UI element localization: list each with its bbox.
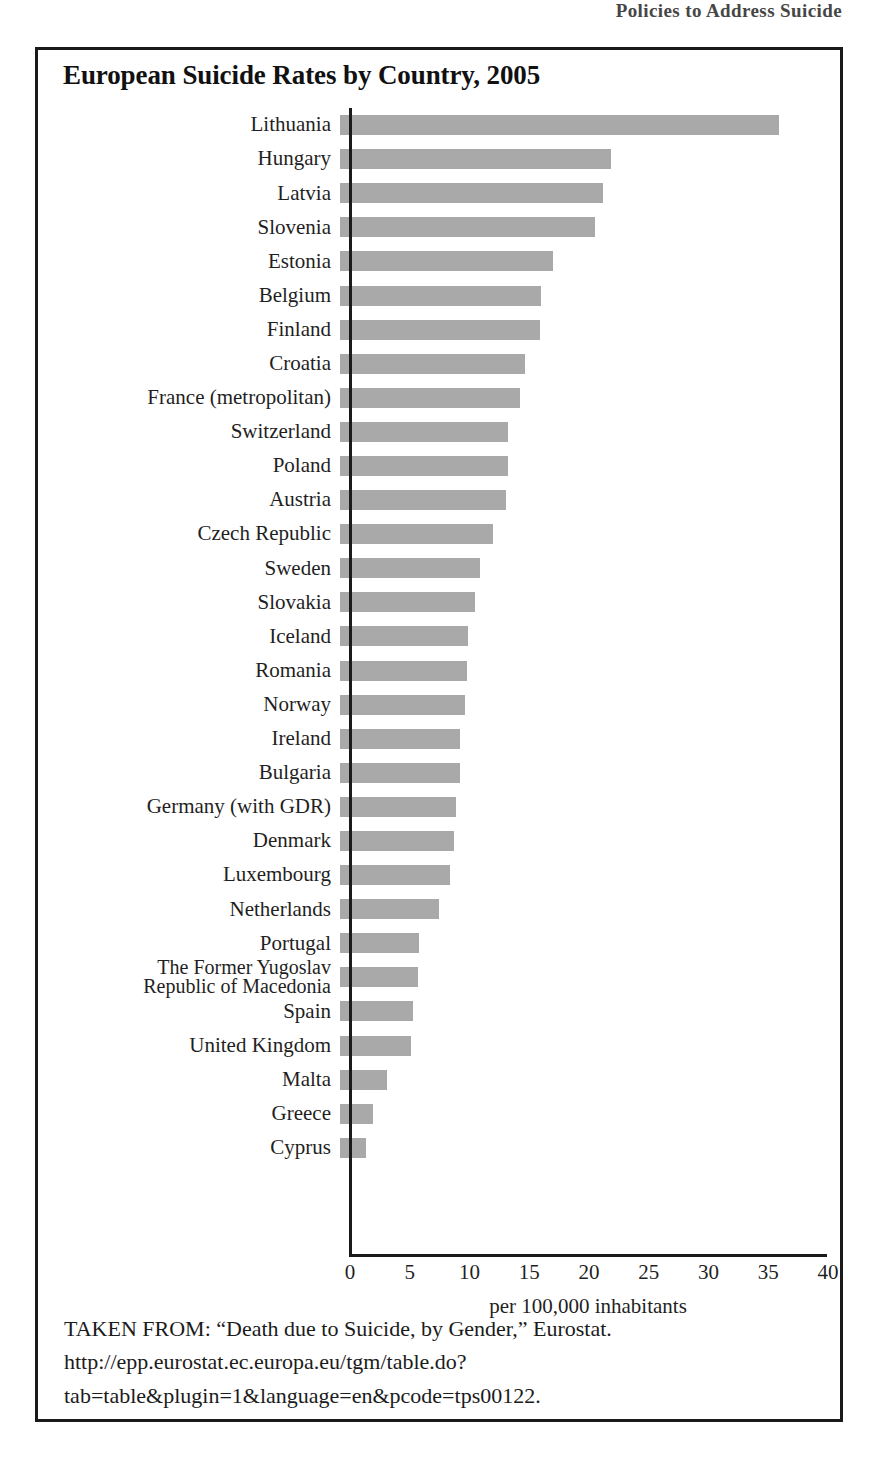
bar-row: Luxembourg [38,858,840,892]
bar-track [340,960,840,994]
bar-category-label: Denmark [38,830,340,851]
bar-track [340,415,840,449]
bar [340,524,493,544]
bar [340,763,460,783]
bar-track [340,824,840,858]
bar-track [340,1131,840,1165]
bar-row: Sweden [38,551,840,585]
bar [340,1104,373,1124]
bar [340,251,553,271]
bar-category-label: United Kingdom [38,1035,340,1056]
bar-track [340,1029,840,1063]
bar-track [340,654,840,688]
x-tick-label: 15 [519,1260,540,1285]
bar-category-label: Slovakia [38,592,340,613]
bar-row: Bulgaria [38,756,840,790]
y-axis-line [349,108,352,1256]
bar-track [340,449,840,483]
x-axis-line [349,1254,827,1257]
bar-category-label: Lithuania [38,114,340,135]
bar-track [340,1063,840,1097]
bar-row: Greece [38,1097,840,1131]
bar-row: Spain [38,994,840,1028]
bar-row: Denmark [38,824,840,858]
bar [340,286,541,306]
bar-track [340,278,840,312]
bar-category-label: Switzerland [38,421,340,442]
x-tick-label: 25 [638,1260,659,1285]
bar-category-label: Czech Republic [38,523,340,544]
x-tick-label: 30 [698,1260,719,1285]
bar-row: United Kingdom [38,1029,840,1063]
bar-track [340,756,840,790]
bar [340,626,468,646]
bar-track [340,892,840,926]
bar-row: Estonia [38,244,840,278]
bar-category-label: Austria [38,489,340,510]
x-axis-ticks: 0510152025303540 [38,1260,840,1294]
bar-row: The Former Yugoslav Republic of Macedoni… [38,960,840,994]
bar-category-label: Netherlands [38,899,340,920]
x-tick-label: 35 [758,1260,779,1285]
bar-row: Norway [38,688,840,722]
bar-category-label: Romania [38,660,340,681]
bar-category-label: Hungary [38,148,340,169]
bar-row: Latvia [38,176,840,210]
bar [340,1070,387,1090]
chart-title: European Suicide Rates by Country, 2005 [63,60,540,91]
bar [340,490,506,510]
bar [340,695,465,715]
bar-category-label: Latvia [38,183,340,204]
bar-category-label: Portugal [38,933,340,954]
bar [340,388,520,408]
bar-track [340,517,840,551]
bar [340,865,450,885]
figure-source-caption: TAKEN FROM: “Death due to Suicide, by Ge… [64,1312,819,1412]
bar [340,661,467,681]
bar-row: Germany (with GDR) [38,790,840,824]
bar-category-label: Finland [38,319,340,340]
bar-category-label: Bulgaria [38,762,340,783]
bar-track [340,210,840,244]
x-tick-label: 20 [579,1260,600,1285]
bar [340,831,454,851]
bar-category-label: Poland [38,455,340,476]
bar-row: Slovakia [38,585,840,619]
bar [340,422,508,442]
bar-row: Switzerland [38,415,840,449]
bar-track [340,483,840,517]
bar-category-label: Greece [38,1103,340,1124]
bar-category-label: Iceland [38,626,340,647]
bar-track [340,858,840,892]
bar-track [340,381,840,415]
x-tick-label: 40 [818,1260,839,1285]
bar-rows: LithuaniaHungaryLatviaSloveniaEstoniaBel… [38,108,840,1253]
bar-category-label: Cyprus [38,1137,340,1158]
bar-track [340,619,840,653]
running-head: Policies to Address Suicide [0,0,878,22]
bar-row: Slovenia [38,210,840,244]
bar-category-label: Spain [38,1001,340,1022]
bar-row: Ireland [38,722,840,756]
bar-category-label: Ireland [38,728,340,749]
bar [340,115,779,135]
bar [340,320,540,340]
bar-track [340,313,840,347]
bar-row: Austria [38,483,840,517]
bar [340,354,525,374]
bar-category-label: Sweden [38,558,340,579]
chart-plot-area: LithuaniaHungaryLatviaSloveniaEstoniaBel… [38,108,840,1298]
bar-row: Lithuania [38,108,840,142]
x-tick-label: 5 [405,1260,416,1285]
bar-row: Iceland [38,619,840,653]
bar-track [340,688,840,722]
bar-category-label: Germany (with GDR) [38,796,340,817]
bar-track [340,790,840,824]
bar-row: Romania [38,654,840,688]
bar-track [340,1097,840,1131]
bar-track [340,108,840,142]
bar-row: Finland [38,313,840,347]
bar [340,558,480,578]
bar-row: Netherlands [38,892,840,926]
bar-row: Hungary [38,142,840,176]
